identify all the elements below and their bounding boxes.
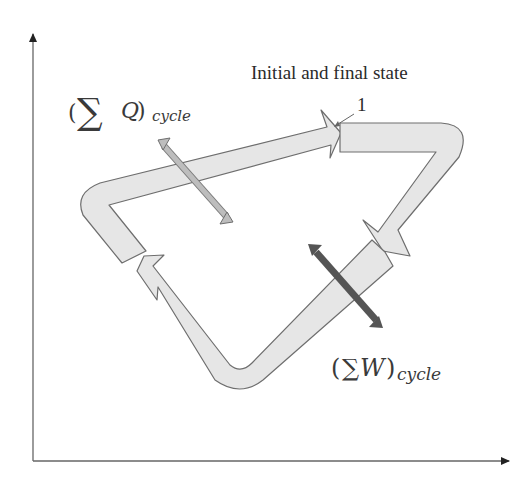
svg-text:(: (: [68, 100, 77, 125]
cycle-diagram: Initial and final state 1 ( ∑ Q ) cycle …: [0, 0, 529, 482]
svg-text:cycle: cycle: [152, 107, 191, 125]
cycle-loop-clean: [81, 110, 464, 389]
svg-text:cycle: cycle: [397, 364, 441, 384]
svg-text:∑: ∑: [77, 91, 103, 132]
svg-text:∑: ∑: [342, 354, 359, 382]
state-number: 1: [357, 94, 367, 115]
heat-label: ( ∑ Q ) cycle: [68, 91, 191, 132]
svg-text:): ): [386, 354, 395, 382]
work-label: ( ∑ W ) cycle: [331, 354, 441, 384]
axes: [33, 34, 509, 461]
state-label: Initial and final state: [251, 62, 408, 83]
svg-text:(: (: [331, 354, 340, 382]
process-band-upper-left: [81, 110, 341, 263]
process-band-upper-right: [340, 123, 463, 256]
svg-text:W: W: [360, 354, 387, 382]
svg-text:): ): [137, 98, 146, 123]
